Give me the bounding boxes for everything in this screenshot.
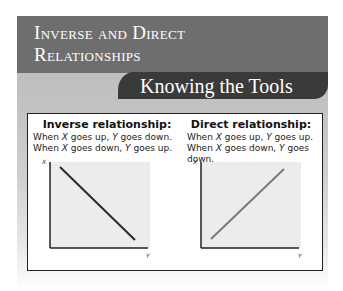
inverse-x-axis-label: Y [146, 252, 150, 259]
page-title: Inverse and Direct Relationships [34, 22, 185, 66]
inverse-heading: Inverse relationship: [42, 118, 172, 131]
inverse-line-1: When X goes up, Y goes down. [33, 132, 173, 143]
direct-heading: Direct relationship: [186, 118, 316, 131]
direct-line-1: When X goes up, Y goes up. [187, 132, 327, 143]
direct-y-axis-label: X [193, 158, 197, 165]
direct-graph [191, 158, 301, 258]
title-line-1: Inverse and Direct [34, 22, 185, 44]
section-tab-label: Knowing the Tools [140, 74, 293, 98]
inverse-line-2: When X goes down, Y goes up. [33, 143, 173, 154]
inverse-graph [40, 158, 150, 258]
inverse-description: When X goes up, Y goes down. When X goes… [33, 132, 173, 154]
direct-x-axis-label: Y [298, 252, 302, 259]
title-line-2: Relationships [34, 44, 185, 66]
inverse-y-axis-label: X [42, 158, 46, 165]
